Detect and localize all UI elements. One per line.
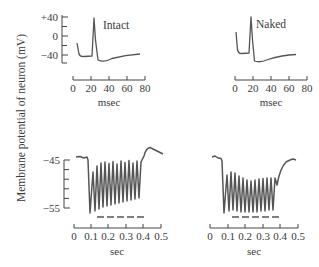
x-tick-label: 40 bbox=[266, 82, 278, 94]
panel-naked-train: 0 0.1 0.2 0.3 0.4 0.5 sec bbox=[207, 156, 305, 257]
x-tick-label: 40 bbox=[104, 82, 116, 94]
x-tick-label: 0 bbox=[71, 230, 77, 242]
y-tick-label: −55 bbox=[43, 202, 61, 214]
x-axis-label: sec bbox=[247, 245, 261, 257]
trace-intact-train bbox=[76, 148, 163, 214]
x-axis-label: msec bbox=[260, 96, 283, 108]
x-tick-label: 0.5 bbox=[154, 230, 168, 242]
x-tick-label: 0.3 bbox=[256, 230, 270, 242]
x-tick-label: 0 bbox=[207, 230, 213, 242]
x-tick-label: 0 bbox=[70, 82, 76, 94]
x-tick-label: 0.2 bbox=[238, 230, 252, 242]
x-axis-label: sec bbox=[110, 245, 124, 257]
y-tick-label: −40 bbox=[41, 49, 59, 61]
y-tick-label: +40 bbox=[41, 11, 59, 23]
x-axis: 0 20 40 60 80 msec bbox=[70, 76, 151, 108]
x-tick-label: 0.3 bbox=[119, 230, 133, 242]
panel-title: Naked bbox=[256, 18, 286, 30]
y-tick-label: −45 bbox=[43, 154, 61, 166]
panel-naked-spike: Naked 0 20 40 60 80 msec bbox=[232, 17, 313, 108]
y-axis: +40 0 −40 bbox=[41, 11, 68, 63]
figure: Membrane potential of neuron (mV) +40 0 … bbox=[0, 0, 319, 267]
x-tick-label: 0.4 bbox=[273, 230, 287, 242]
x-tick-label: 0.1 bbox=[84, 230, 98, 242]
x-axis-label: msec bbox=[98, 96, 121, 108]
x-tick-label: 0 bbox=[232, 82, 238, 94]
panel-intact-spike: +40 0 −40 Intact 0 20 40 60 80 msec bbox=[41, 11, 151, 108]
x-axis: 0 0.1 0.2 0.3 0.4 0.5 sec bbox=[207, 224, 305, 257]
x-tick-label: 60 bbox=[122, 82, 134, 94]
x-axis: 0 20 40 60 80 msec bbox=[232, 76, 313, 108]
x-tick-label: 80 bbox=[302, 82, 314, 94]
x-tick-label: 80 bbox=[140, 82, 152, 94]
x-tick-label: 20 bbox=[248, 82, 260, 94]
x-tick-label: 0.4 bbox=[136, 230, 150, 242]
y-axis: −45 −55 bbox=[43, 154, 70, 214]
panel-intact-train: −45 −55 0 0.1 0.2 0.3 0.4 0.5 sec bbox=[43, 148, 169, 258]
x-axis: 0 0.1 0.2 0.3 0.4 0.5 sec bbox=[71, 224, 168, 257]
x-tick-label: 0.2 bbox=[101, 230, 115, 242]
x-tick-label: 20 bbox=[86, 82, 98, 94]
trace-naked-train bbox=[212, 156, 296, 213]
x-tick-label: 0.1 bbox=[221, 230, 235, 242]
x-tick-label: 60 bbox=[284, 82, 296, 94]
y-axis-label: Membrane potential of neuron (mV) bbox=[15, 34, 28, 202]
panel-title: Intact bbox=[103, 19, 130, 31]
x-tick-label: 0.5 bbox=[291, 230, 305, 242]
y-tick-label: 0 bbox=[53, 30, 59, 42]
